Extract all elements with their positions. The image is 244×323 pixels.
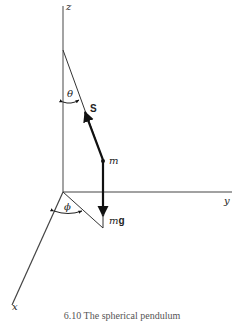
figure-caption: 6.10 The spherical pendulum [0, 311, 244, 321]
tension-label: S [90, 104, 97, 114]
theta-arc [63, 100, 79, 103]
x-axis [12, 192, 63, 305]
weight-label: mg [109, 210, 125, 228]
theta-label: θ [67, 89, 73, 99]
z-axis-label: z [66, 2, 71, 12]
mass-point [101, 159, 105, 163]
weight-label-g: g [118, 215, 124, 226]
y-axis-label: y [224, 196, 230, 206]
mass-label: m [109, 156, 118, 166]
tension-vector-arrow [85, 112, 103, 160]
phi-label: ϕ [64, 202, 71, 212]
